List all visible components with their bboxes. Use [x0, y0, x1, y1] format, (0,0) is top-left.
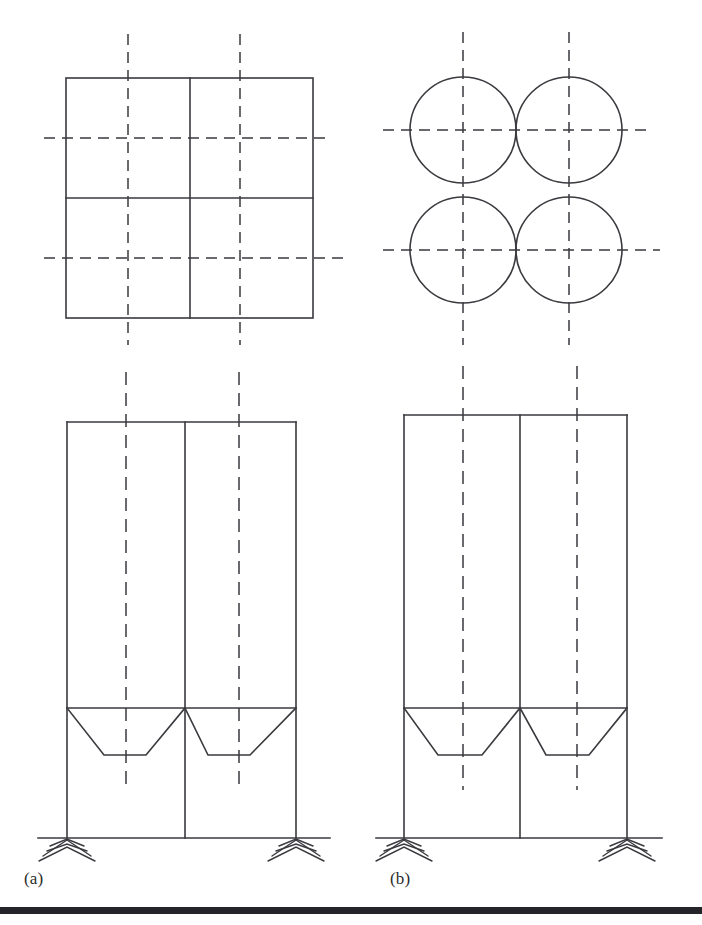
panel-b-plan: [383, 32, 660, 345]
panel-b-elevation: [376, 366, 662, 861]
elev-a-support-right: [268, 839, 324, 861]
elev-b-support-left: [376, 839, 432, 861]
elev-b-hopper-left: [404, 708, 520, 755]
plan-b-centerlines: [383, 32, 660, 345]
silo-group-drawing: [0, 0, 702, 925]
figure-root: (a) (b): [0, 0, 702, 925]
panel-a-plan: [44, 34, 350, 345]
caption-a: (a): [24, 869, 43, 889]
panel-a-elevation: [38, 372, 330, 861]
elev-a-centerlines: [126, 372, 239, 790]
elev-b-support-right: [599, 839, 655, 861]
elev-a-hopper-right: [185, 708, 296, 755]
elev-b-hopper-right: [520, 708, 627, 755]
elev-a-support-left: [39, 839, 95, 861]
plan-a-centerlines: [44, 34, 350, 345]
caption-b: (b): [390, 869, 410, 889]
footer-rule: [0, 907, 702, 914]
